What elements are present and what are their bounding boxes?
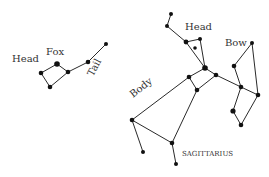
fox-line — [68, 62, 88, 72]
sagittarius-star — [195, 88, 200, 93]
fox-star — [39, 71, 44, 76]
fox-star — [104, 42, 108, 46]
sagittarius-star — [170, 141, 175, 146]
sagittarius-star — [256, 93, 261, 98]
sagittarius-star — [230, 108, 235, 113]
sagittarius-star — [239, 85, 244, 90]
fox-label-head: Head — [12, 53, 40, 64]
fox-line — [41, 73, 50, 87]
sagittarius-line — [200, 39, 205, 68]
sagittarius-label-head: Head — [185, 21, 213, 32]
sagittarius-star — [193, 46, 197, 50]
fox-star — [66, 70, 71, 75]
sagittarius-star — [187, 75, 192, 80]
sagittarius-star — [184, 40, 189, 45]
sagittarius-star — [165, 24, 169, 28]
sagittarius-label-body: Body — [127, 75, 154, 100]
fox-star — [48, 85, 53, 90]
fox-line — [50, 72, 68, 87]
sagittarius-line — [132, 120, 172, 143]
sagittarius-star — [232, 64, 237, 69]
labels: HeadFoxTailHeadBowBodySAGITTARIUS — [12, 21, 247, 158]
sagittarius-line — [172, 90, 197, 143]
sagittarius-star — [141, 150, 145, 154]
sagittarius-star — [169, 12, 173, 16]
fox-label-fox: Fox — [46, 46, 64, 57]
constellation-diagram: HeadFoxTailHeadBowBodySAGITTARIUS — [0, 0, 269, 177]
sagittarius-star — [174, 162, 178, 166]
sagittarius-line — [233, 87, 241, 111]
sagittarius-label-bow: Bow — [225, 37, 247, 48]
sagittarius-star — [239, 123, 244, 128]
sagittarius-star — [198, 37, 202, 41]
sagittarius-line — [186, 42, 205, 68]
sagittarius-star — [130, 118, 135, 123]
sagittarius-line — [241, 95, 258, 125]
sagittarius-line — [241, 87, 258, 95]
sagittarius-star — [202, 65, 208, 71]
sagittarius-line — [197, 75, 216, 90]
fox-star — [54, 61, 60, 67]
sagittarius-line — [172, 143, 176, 164]
sagittarius-star — [250, 41, 254, 45]
sagittarius-line — [252, 43, 258, 95]
sagittarius-line — [167, 26, 186, 42]
stars — [39, 12, 261, 166]
sagittarius-star — [214, 73, 219, 78]
sagittarius-label-sagittarius: SAGITTARIUS — [182, 150, 233, 158]
